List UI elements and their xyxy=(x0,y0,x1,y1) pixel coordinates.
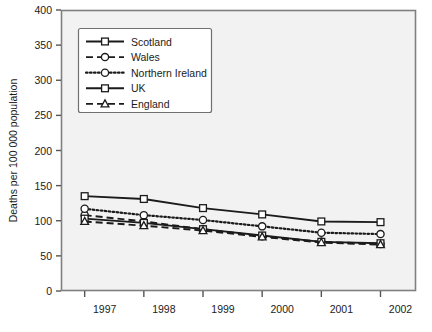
legend-label: England xyxy=(131,98,170,110)
data-point xyxy=(318,229,325,236)
data-point xyxy=(140,196,147,203)
x-axis-tick-label: 1999 xyxy=(211,303,235,315)
line-chart: 0501001502002503003504001997199819992000… xyxy=(0,0,432,332)
y-axis-tick-label: 200 xyxy=(34,145,52,157)
y-axis-tick-label: 150 xyxy=(34,180,52,192)
y-axis-tick-label: 250 xyxy=(34,109,52,121)
chart-figure: 0501001502002503003504001997199819992000… xyxy=(0,0,432,332)
legend-marker xyxy=(102,85,109,92)
legend-marker xyxy=(101,54,108,61)
data-point xyxy=(81,205,88,212)
y-axis-tick-label: 50 xyxy=(40,250,52,262)
data-point xyxy=(81,193,88,200)
y-axis-title: Deaths per 100 000 population xyxy=(7,79,19,223)
data-point xyxy=(318,218,325,225)
y-axis-tick-label: 350 xyxy=(34,39,52,51)
x-axis-tick-label: 1998 xyxy=(152,303,176,315)
y-axis-tick-label: 400 xyxy=(34,4,52,16)
x-axis-tick-label: 1997 xyxy=(93,303,117,315)
data-point xyxy=(377,219,384,226)
x-axis-tick-label: 2001 xyxy=(330,303,354,315)
y-axis-tick-label: 100 xyxy=(34,215,52,227)
legend-label: Scotland xyxy=(131,36,172,48)
x-axis-tick-label: 2002 xyxy=(389,303,413,315)
data-point xyxy=(377,230,384,237)
data-point xyxy=(140,212,147,219)
legend-label: Northern Ireland xyxy=(131,67,207,79)
data-point xyxy=(199,216,206,223)
legend-marker xyxy=(102,38,109,45)
legend-label: Wales xyxy=(131,51,160,63)
legend-label: UK xyxy=(131,82,146,94)
data-point xyxy=(259,223,266,230)
data-point xyxy=(259,211,266,218)
x-axis-tick-label: 2000 xyxy=(270,303,294,315)
legend: ScotlandWalesNorthern IrelandUKEngland xyxy=(79,29,212,113)
data-point xyxy=(200,205,207,212)
y-axis-tick-label: 300 xyxy=(34,74,52,86)
y-axis-tick-label: 0 xyxy=(46,285,52,297)
legend-marker xyxy=(101,69,108,76)
